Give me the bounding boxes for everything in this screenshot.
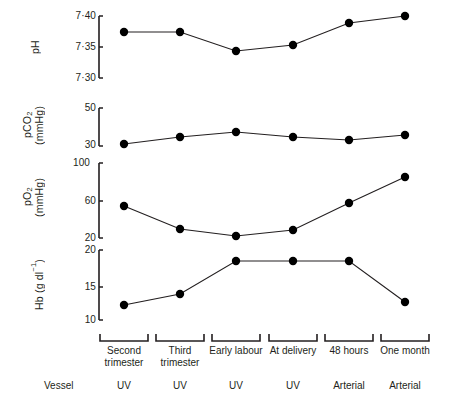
vessel-value-4: Arterial xyxy=(321,380,377,391)
series-pco2-line xyxy=(124,132,405,144)
figure-container: pH 7·40 7·35 7·30 pCO2 (mmHg) 50 30 xyxy=(0,0,449,406)
y-axis-pco2 xyxy=(99,108,103,146)
plot-po2 xyxy=(0,158,449,243)
series-hb-markers xyxy=(120,257,409,309)
x-category-0: Second trimester xyxy=(96,345,152,368)
panel-hb: Hb (g dl−1) 20 15 10 xyxy=(0,241,449,326)
plot-ph xyxy=(0,0,449,95)
y-axis-po2 xyxy=(99,163,103,238)
vessel-value-2: UV xyxy=(208,380,264,391)
x-bracket-0 xyxy=(100,334,148,341)
panel-ph: pH 7·40 7·35 7·30 xyxy=(0,0,449,95)
series-hb-line xyxy=(124,261,405,305)
x-category-1: Third trimester xyxy=(152,345,208,368)
series-ph-line xyxy=(124,16,405,51)
panel-pco2: pCO2 (mmHg) 50 30 xyxy=(0,95,449,160)
x-bracket-3 xyxy=(269,334,317,341)
x-bracket-4 xyxy=(325,334,373,341)
panel-po2: pO2 (mmHg) 100 60 20 xyxy=(0,158,449,243)
vessel-row-label: Vessel xyxy=(44,380,73,391)
vessel-value-0: UV xyxy=(96,380,152,391)
plot-pco2 xyxy=(0,95,449,160)
x-category-3: At delivery xyxy=(265,345,321,357)
x-category-5: One month xyxy=(377,345,433,357)
series-ph-markers xyxy=(120,12,409,55)
vessel-value-3: UV xyxy=(265,380,321,391)
x-bracket-5 xyxy=(381,334,429,341)
plot-hb xyxy=(0,241,449,326)
series-po2-markers xyxy=(120,173,409,240)
y-axis-hb xyxy=(99,250,103,320)
series-po2-line xyxy=(124,177,405,236)
y-axis-ph xyxy=(99,16,103,78)
vessel-value-5: Arterial xyxy=(377,380,433,391)
x-category-4: 48 hours xyxy=(321,345,377,357)
x-bracket-1 xyxy=(156,334,204,341)
x-category-2: Early labour xyxy=(208,345,264,357)
x-bracket-2 xyxy=(212,334,260,341)
vessel-value-1: UV xyxy=(152,380,208,391)
